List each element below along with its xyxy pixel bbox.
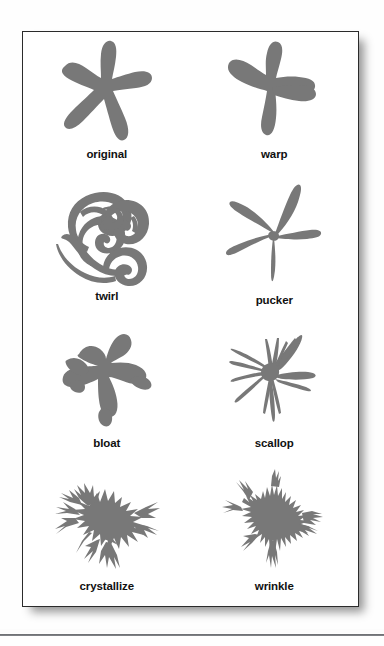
example-label: crystallize: [79, 581, 134, 593]
example-label: scallop: [255, 438, 294, 450]
example-cell-scallop: scallop: [191, 319, 359, 463]
example-label: twirl: [95, 291, 118, 303]
example-cell-crystallize: crystallize: [23, 463, 191, 607]
starfish-wrinkle-shape: [215, 469, 333, 577]
example-label: original: [86, 149, 127, 161]
example-label: pucker: [256, 295, 293, 307]
figure-page: original warp: [0, 0, 384, 646]
starfish-original-shape: [48, 38, 166, 146]
liquify-example-grid: original warp: [23, 32, 358, 606]
example-cell-pucker: pucker: [191, 176, 359, 320]
starfish-pucker-shape: [215, 178, 333, 286]
page-footer-gap: [0, 629, 384, 633]
example-cell-warp: warp: [191, 32, 359, 176]
starfish-crystallize-shape: [48, 469, 166, 577]
starfish-bloat-shape: [48, 325, 166, 433]
example-label: wrinkle: [255, 581, 294, 593]
example-cell-bloat: bloat: [23, 319, 191, 463]
example-cell-original: original: [23, 32, 191, 176]
starfish-warp-shape: [215, 38, 333, 146]
figure-plate: original warp: [22, 31, 359, 607]
example-label: bloat: [93, 438, 120, 450]
starfish-twirl-shape: [48, 182, 166, 290]
example-label: warp: [261, 149, 287, 161]
starfish-scallop-shape: [215, 325, 333, 433]
example-cell-wrinkle: wrinkle: [191, 463, 359, 607]
page-footer-rule: [0, 634, 384, 636]
example-cell-twirl: twirl: [23, 176, 191, 320]
